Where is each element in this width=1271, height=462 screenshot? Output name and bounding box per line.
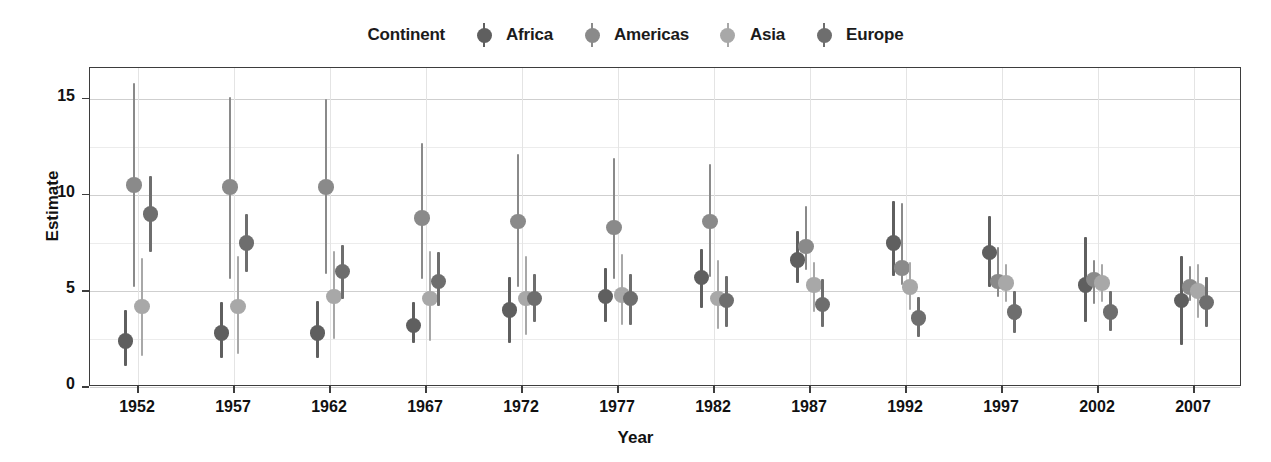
legend-marker-icon: [811, 22, 837, 48]
x-tick-mark: [137, 386, 139, 393]
data-point[interactable]: [911, 310, 927, 326]
error-bar: [613, 158, 616, 279]
x-tick-label: 1992: [860, 398, 950, 416]
legend: Continent AfricaAmericasAsiaEurope: [0, 22, 1271, 48]
x-tick-label: 1982: [668, 398, 758, 416]
x-tick-mark: [425, 386, 427, 393]
data-point[interactable]: [1103, 304, 1119, 320]
gridline-vertical: [138, 68, 139, 385]
chart-root: Continent AfricaAmericasAsiaEurope Estim…: [0, 0, 1271, 462]
gridline-vertical: [1098, 68, 1099, 385]
gridline-vertical: [906, 68, 907, 385]
data-point[interactable]: [335, 264, 351, 280]
data-point[interactable]: [510, 214, 526, 230]
data-point[interactable]: [326, 289, 342, 305]
legend-marker-icon: [579, 22, 605, 48]
y-tick-mark: [82, 194, 89, 196]
x-tick-label: 1952: [92, 398, 182, 416]
data-point[interactable]: [694, 270, 710, 286]
x-tick-mark: [905, 386, 907, 393]
legend-label: Europe: [846, 25, 903, 45]
data-point[interactable]: [606, 220, 622, 236]
legend-marker-icon: [715, 22, 741, 48]
data-point[interactable]: [406, 318, 422, 334]
data-point[interactable]: [118, 333, 134, 349]
gridline-vertical: [1002, 68, 1003, 385]
data-point[interactable]: [502, 302, 518, 318]
data-point[interactable]: [702, 214, 718, 230]
x-tick-mark: [1097, 386, 1099, 393]
data-point[interactable]: [1199, 295, 1215, 311]
data-point[interactable]: [623, 291, 639, 307]
gridline-vertical: [426, 68, 427, 385]
data-point[interactable]: [230, 299, 246, 315]
legend-label: Americas: [614, 25, 689, 45]
data-point[interactable]: [598, 289, 614, 305]
gridline-vertical: [330, 68, 331, 385]
legend-title: Continent: [368, 25, 446, 45]
x-tick-label: 1987: [764, 398, 854, 416]
data-point[interactable]: [1094, 275, 1110, 291]
data-point[interactable]: [222, 179, 238, 195]
gridline-horizontal: [90, 99, 1240, 100]
data-point[interactable]: [143, 206, 159, 222]
plot-area: [89, 67, 1241, 386]
data-point[interactable]: [998, 275, 1014, 291]
x-tick-label: 1957: [188, 398, 278, 416]
data-point[interactable]: [886, 235, 902, 251]
x-tick-mark: [617, 386, 619, 393]
data-point[interactable]: [1007, 304, 1023, 320]
error-bar: [997, 247, 1000, 297]
x-tick-label: 1977: [572, 398, 662, 416]
data-point[interactable]: [422, 291, 438, 307]
data-point[interactable]: [902, 279, 918, 295]
data-point[interactable]: [719, 293, 735, 309]
legend-label: Asia: [750, 25, 785, 45]
gridline-horizontal-minor: [90, 339, 1240, 340]
x-tick-mark: [1001, 386, 1003, 393]
y-tick-label: 15: [29, 87, 75, 105]
x-tick-label: 2007: [1148, 398, 1238, 416]
legend-label: Africa: [506, 25, 553, 45]
data-point[interactable]: [790, 252, 806, 268]
data-point[interactable]: [798, 239, 814, 255]
x-tick-mark: [809, 386, 811, 393]
data-point[interactable]: [527, 291, 543, 307]
y-tick-label: 0: [29, 375, 75, 393]
y-tick-label: 5: [29, 279, 75, 297]
data-point[interactable]: [815, 297, 831, 313]
legend-entry-asia[interactable]: Asia: [715, 22, 785, 48]
x-axis-title: Year: [0, 428, 1271, 448]
y-tick-label: 10: [29, 183, 75, 201]
gridline-vertical: [810, 68, 811, 385]
data-point[interactable]: [318, 179, 334, 195]
gridline-horizontal: [90, 291, 1240, 292]
data-point[interactable]: [134, 299, 150, 315]
data-point[interactable]: [239, 235, 255, 251]
gridline-vertical: [1194, 68, 1195, 385]
data-point[interactable]: [1174, 293, 1190, 309]
y-axis-title: Estimate: [43, 146, 63, 266]
gridline-horizontal-minor: [90, 243, 1240, 244]
x-tick-mark: [1193, 386, 1195, 393]
legend-entry-europe[interactable]: Europe: [811, 22, 903, 48]
data-point[interactable]: [431, 274, 447, 290]
x-tick-label: 1967: [380, 398, 470, 416]
data-point[interactable]: [894, 260, 910, 276]
data-point[interactable]: [982, 245, 998, 261]
gridline-horizontal: [90, 387, 1240, 388]
x-tick-mark: [329, 386, 331, 393]
legend-entry-africa[interactable]: Africa: [471, 22, 553, 48]
x-tick-mark: [521, 386, 523, 393]
gridline-vertical: [234, 68, 235, 385]
x-tick-label: 1962: [284, 398, 374, 416]
legend-entry-americas[interactable]: Americas: [579, 22, 689, 48]
gridline-horizontal-minor: [90, 147, 1240, 148]
data-point[interactable]: [126, 177, 142, 193]
gridline-horizontal: [90, 195, 1240, 196]
x-tick-mark: [713, 386, 715, 393]
data-point[interactable]: [414, 210, 430, 226]
data-point[interactable]: [806, 277, 822, 293]
x-tick-label: 2002: [1052, 398, 1142, 416]
y-tick-mark: [82, 290, 89, 292]
